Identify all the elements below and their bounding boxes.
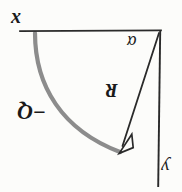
y-axis-label: y [161, 158, 169, 177]
charge-label: −Q [17, 101, 46, 123]
x-axis-line [20, 30, 161, 31]
y-axis-line [158, 31, 160, 186]
radius-R-label: R [105, 81, 118, 100]
figure-drawing-canvas [0, 0, 182, 192]
angle-alpha-label: α [127, 33, 136, 51]
x-axis-label: x [11, 6, 21, 26]
figure-container: x α R −Q y [0, 0, 182, 192]
